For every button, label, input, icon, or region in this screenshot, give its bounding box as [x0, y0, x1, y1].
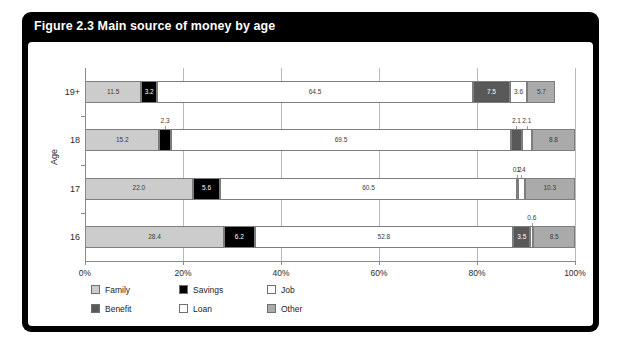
bar-value-label: 15.2 — [116, 137, 129, 144]
bar-value-label: 60.5 — [362, 185, 375, 192]
legend-row: BenefitLoanOther — [91, 299, 421, 318]
bar-value-label: 69.5 — [335, 137, 348, 144]
bar-value-label: 64.5 — [309, 89, 322, 96]
bar-value-callout: 1.4 — [517, 166, 526, 173]
bar-segment: 69.5 — [171, 129, 512, 151]
bar-value-label: 3.2 — [145, 89, 154, 96]
legend-label: Loan — [193, 304, 212, 314]
x-tick-mark — [183, 261, 184, 265]
legend-item-benefit[interactable]: Benefit — [91, 304, 131, 314]
bar-segment: 15.2 — [85, 129, 159, 151]
bar-segment: 22.0 — [85, 178, 193, 200]
legend-swatch-icon — [267, 285, 276, 294]
bar-value-label: 52.8 — [378, 234, 391, 241]
bar-segment: 5.6 — [193, 178, 220, 200]
bar-row: 22.05.660.510.3 — [85, 178, 575, 200]
bar-value-label: 6.2 — [235, 234, 244, 241]
bar-value-label: 8.8 — [549, 137, 558, 144]
bar-segment: 60.5 — [220, 178, 516, 200]
bar-value-label: 7.5 — [487, 89, 496, 96]
y-axis-line — [85, 68, 86, 261]
x-tick-mark — [477, 261, 478, 265]
y-tick-label: 19+ — [40, 87, 80, 97]
x-tick-mark — [379, 261, 380, 265]
figure-frame: Figure 2.3 Main source of money by age A… — [22, 12, 599, 332]
bar-value-callout: 2.3 — [161, 117, 170, 124]
legend-item-family[interactable]: Family — [91, 285, 130, 295]
x-axis-line — [85, 261, 575, 262]
bar-segment: 3.6 — [510, 81, 528, 103]
bar-value-callout: 2.1 — [522, 117, 531, 124]
bar-row: 28.46.252.83.58.5 — [85, 226, 575, 248]
chart-legend: FamilySavingsJobBenefitLoanOther — [91, 280, 421, 318]
bar-segment — [159, 129, 170, 151]
y-tick-mark — [81, 213, 85, 214]
legend-item-job[interactable]: Job — [267, 285, 295, 295]
y-tick-mark — [81, 165, 85, 166]
bar-segment — [518, 178, 525, 200]
bar-row: 15.269.58.8 — [85, 129, 575, 151]
bar-segment — [522, 129, 532, 151]
bar-segment: 3.2 — [141, 81, 157, 103]
legend-swatch-icon — [91, 285, 100, 294]
bar-segment: 28.4 — [85, 226, 224, 248]
x-tick-label: 40% — [272, 268, 289, 278]
bar-segment: 8.8 — [532, 129, 575, 151]
bar-segment: 5.7 — [527, 81, 555, 103]
x-tick-label: 20% — [174, 268, 191, 278]
bar-value-label: 28.4 — [148, 234, 161, 241]
bar-segment: 7.5 — [473, 81, 510, 103]
legend-swatch-icon — [91, 304, 100, 313]
bar-value-label: 11.5 — [107, 89, 119, 96]
x-tick-label: 0% — [79, 268, 91, 278]
legend-label: Benefit — [105, 304, 131, 314]
legend-item-savings[interactable]: Savings — [179, 285, 223, 295]
legend-swatch-icon — [179, 304, 188, 313]
y-axis-title: Age — [49, 149, 59, 165]
x-tick-label: 100% — [564, 268, 586, 278]
bar-value-label: 10.3 — [543, 185, 556, 192]
bar-row: 11.53.264.57.53.65.7 — [85, 81, 575, 103]
y-tick-label: 17 — [40, 184, 80, 194]
bar-value-label: 5.6 — [202, 185, 211, 192]
x-tick-label: 60% — [370, 268, 387, 278]
bar-segment: 10.3 — [525, 178, 575, 200]
legend-item-other[interactable]: Other — [267, 304, 302, 314]
bar-value-label: 8.5 — [550, 234, 559, 241]
legend-label: Family — [105, 285, 130, 295]
legend-label: Savings — [193, 285, 223, 295]
bar-value-callout: 0.6 — [527, 214, 536, 221]
legend-swatch-icon — [267, 304, 276, 313]
bar-value-label: 5.7 — [537, 89, 546, 96]
y-tick-label: 16 — [40, 232, 80, 242]
legend-label: Other — [281, 304, 302, 314]
bar-value-label: 22.0 — [133, 185, 146, 192]
legend-row: FamilySavingsJob — [91, 280, 421, 299]
bar-segment: 52.8 — [255, 226, 514, 248]
x-tick-label: 80% — [468, 268, 485, 278]
x-tick-mark — [281, 261, 282, 265]
legend-swatch-icon — [179, 285, 188, 294]
y-tick-label: 18 — [40, 135, 80, 145]
bar-segment — [511, 129, 521, 151]
x-tick-mark — [85, 261, 86, 265]
chart-card: Age 11.53.264.57.53.65.72.32.12.115.269.… — [28, 42, 593, 326]
legend-item-loan[interactable]: Loan — [179, 304, 212, 314]
legend-label: Job — [281, 285, 295, 295]
y-tick-mark — [81, 116, 85, 117]
bar-segment: 64.5 — [157, 81, 473, 103]
bar-value-label: 3.5 — [517, 234, 526, 241]
bar-segment: 3.5 — [513, 226, 530, 248]
bar-value-label: 3.6 — [514, 89, 523, 96]
x-tick-mark — [575, 261, 576, 265]
page-title: Figure 2.3 Main source of money by age — [34, 19, 599, 33]
bar-segment: 6.2 — [224, 226, 254, 248]
bar-segment: 8.5 — [533, 226, 575, 248]
bar-value-callout: 2.1 — [512, 117, 521, 124]
screenshot-root: Figure 2.3 Main source of money by age A… — [0, 0, 621, 345]
chart-plot-area: 11.53.264.57.53.65.72.32.12.115.269.58.8… — [85, 68, 575, 261]
bar-segment: 11.5 — [85, 81, 141, 103]
gridline — [575, 68, 576, 261]
figure-title-bar: Figure 2.3 Main source of money by age — [22, 12, 599, 44]
